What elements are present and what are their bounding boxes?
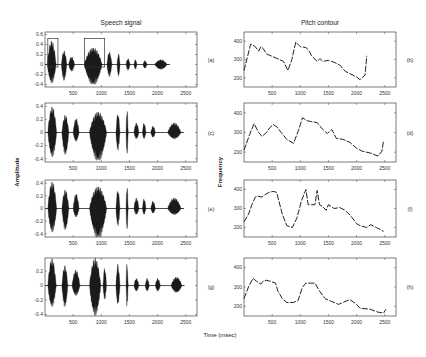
y-tick-label: 200	[234, 224, 243, 230]
panel-label: (b)	[407, 57, 414, 63]
x-tick-label: 2500	[379, 90, 390, 96]
panel-e: 5001000150020002500-0.4-0.200.20.4(e)	[34, 180, 214, 246]
panel-label: (g)	[208, 284, 215, 290]
y-tick-label: -0.2	[34, 218, 43, 224]
x-tick-label: 1500	[124, 90, 135, 96]
y-tick-label: 0	[40, 205, 43, 211]
x-tick-label: 2500	[379, 240, 390, 246]
y-tick-label: 0.2	[36, 268, 43, 274]
x-tick-label: 500	[268, 240, 277, 246]
y-tick-label: 0.6	[36, 31, 43, 37]
x-tick-label: 2000	[351, 90, 362, 96]
y-tick-label: 300	[234, 284, 243, 290]
y-tick-label: 200	[234, 149, 243, 155]
y-tick-label: 300	[234, 205, 243, 211]
x-tick-label: 1500	[323, 240, 334, 246]
x-tick-label: 500	[69, 90, 78, 96]
x-tick-label: 2000	[152, 240, 163, 246]
y-tick-label: 400	[234, 186, 243, 192]
x-tick-label: 500	[69, 165, 78, 171]
y-tick-label: 0	[40, 61, 43, 67]
x-tick-label: 500	[268, 90, 277, 96]
panel-f: 5001000150020002500200300400(f)	[234, 180, 413, 246]
y-tick-label: 300	[234, 129, 243, 135]
figure: Speech signal Pitch contour Time (msec) …	[0, 0, 426, 357]
x-tick-label: 2500	[180, 165, 191, 171]
panel-label: (e)	[208, 206, 215, 212]
x-tick-label: 2000	[152, 319, 163, 325]
x-tick-label: 2000	[351, 165, 362, 171]
x-tick-label: 500	[268, 165, 277, 171]
plot-frame	[244, 32, 396, 87]
plot-frame	[45, 32, 197, 87]
x-tick-label: 2500	[379, 319, 390, 325]
y-tick-label: -0.4	[34, 156, 43, 162]
x-tick-label: 1000	[295, 90, 306, 96]
y-tick-label: 0.4	[36, 180, 43, 186]
x-tick-label: 500	[69, 319, 78, 325]
panel-a: 5001000150020002500-0.4-0.200.20.40.6(a)	[34, 31, 214, 96]
x-tick-label: 1500	[323, 165, 334, 171]
panel-label: (d)	[407, 130, 414, 136]
y-tick-label: -0.4	[34, 231, 43, 237]
panel-label: (a)	[208, 57, 215, 63]
y-tick-label: 0.2	[36, 193, 43, 199]
x-tick-label: 2500	[379, 165, 390, 171]
x-tick-label: 1000	[96, 240, 107, 246]
x-tick-label: 1000	[295, 319, 306, 325]
x-tick-label: 1000	[96, 319, 107, 325]
y-tick-label: 0.4	[36, 41, 43, 47]
y-tick-label: 400	[234, 110, 243, 116]
x-tick-label: 2500	[180, 90, 191, 96]
panel-b: 5001000150020002500200300400(b)	[234, 32, 414, 96]
x-tick-label: 1000	[96, 165, 107, 171]
x-tick-label: 1000	[295, 240, 306, 246]
y-tick-label: -0.4	[34, 311, 43, 317]
x-tick-label: 2000	[152, 165, 163, 171]
y-tick-label: -0.2	[34, 71, 43, 77]
x-tick-label: 2500	[180, 319, 191, 325]
x-tick-label: 1000	[295, 165, 306, 171]
x-tick-label: 2000	[351, 319, 362, 325]
x-tick-label: 1000	[96, 90, 107, 96]
x-tick-label: 2000	[152, 90, 163, 96]
x-tick-label: 1500	[323, 319, 334, 325]
x-tick-label: 500	[268, 319, 277, 325]
y-tick-label: 0	[40, 282, 43, 288]
y-tick-label: 0.4	[36, 103, 43, 109]
right-ylabel: Frequency	[217, 156, 223, 187]
left-column-title: Speech signal	[101, 19, 142, 27]
shared-xlabel: Time (msec)	[203, 332, 236, 338]
y-tick-label: 400	[234, 264, 243, 270]
y-tick-label: -0.4	[34, 81, 43, 87]
y-tick-label: 200	[234, 303, 243, 309]
y-tick-label: 0.2	[36, 51, 43, 57]
panel-d: 5001000150020002500200300400(d)	[234, 103, 414, 171]
y-tick-label: 200	[234, 75, 243, 81]
x-tick-label: 500	[69, 240, 78, 246]
x-tick-label: 1500	[124, 165, 135, 171]
panel-c: 5001000150020002500-0.4-0.200.20.4(c)	[34, 103, 214, 171]
y-tick-label: 400	[234, 38, 243, 44]
panel-h: 5001000150020002500200300400(h)	[234, 258, 414, 325]
left-ylabel: Amplitude	[14, 157, 20, 187]
right-column-title: Pitch contour	[301, 19, 340, 26]
plot-frame	[244, 258, 396, 316]
panel-g: 5001000150020002500-0.4-0.200.2(g)	[34, 258, 214, 325]
y-tick-label: 0	[40, 129, 43, 135]
plot-frame	[244, 180, 396, 237]
x-tick-label: 1500	[124, 319, 135, 325]
x-tick-label: 2500	[180, 240, 191, 246]
y-tick-label: 0.2	[36, 116, 43, 122]
panel-label: (h)	[407, 284, 414, 290]
y-tick-label: -0.2	[34, 297, 43, 303]
panel-label: (c)	[208, 130, 215, 136]
x-tick-label: 1500	[323, 90, 334, 96]
y-tick-label: 300	[234, 56, 243, 62]
x-tick-label: 1500	[124, 240, 135, 246]
y-tick-label: -0.2	[34, 142, 43, 148]
panel-label: (f)	[407, 206, 412, 212]
x-tick-label: 2000	[351, 240, 362, 246]
